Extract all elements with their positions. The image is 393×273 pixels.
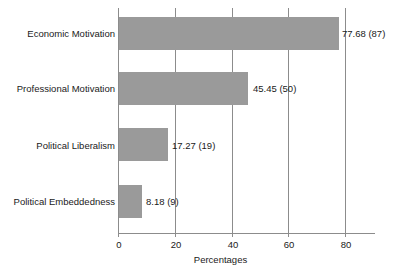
value-label-professional-motivation: 45.45 (50) (253, 83, 296, 94)
tick-40 (232, 233, 233, 237)
tick-20 (175, 233, 176, 237)
tick-label-20: 20 (164, 239, 188, 250)
category-label-professional-motivation: Professional Motivation (0, 83, 115, 94)
x-axis-title: Percentages (194, 254, 247, 265)
gridline-80 (345, 8, 346, 233)
value-label-political-liberalism: 17.27 (19) (172, 140, 215, 151)
bar-economic-motivation (119, 17, 339, 50)
bar-political-embeddedness (119, 185, 142, 218)
bar-professional-motivation (119, 72, 248, 105)
tick-80 (345, 233, 346, 237)
tick-60 (288, 233, 289, 237)
category-label-economic-motivation: Economic Motivation (0, 28, 115, 39)
tick-label-80: 80 (334, 239, 358, 250)
tick-label-40: 40 (221, 239, 245, 250)
tick-label-0: 0 (107, 239, 131, 250)
bar-chart: Economic Motivation Professional Motivat… (0, 0, 393, 273)
value-label-political-embeddedness: 8.18 (9) (146, 196, 179, 207)
bar-political-liberalism (119, 128, 168, 161)
tick-0 (118, 233, 119, 237)
x-axis-title-wrapper: Percentages (0, 254, 393, 265)
x-axis-line (118, 233, 375, 234)
category-label-political-liberalism: Political Liberalism (0, 140, 115, 151)
category-label-political-embeddedness: Political Embeddedness (0, 196, 115, 207)
tick-label-60: 60 (277, 239, 301, 250)
value-label-economic-motivation: 77.68 (87) (342, 28, 385, 39)
